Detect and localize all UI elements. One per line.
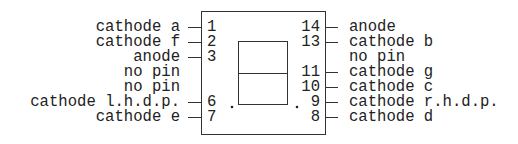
left-decimal-point [231,106,234,109]
pin-number-13: 13 [296,35,320,50]
left-label-7: cathode e [0,110,180,125]
pinout-diagram: cathode a cathode f anode no pin no pin … [0,0,518,144]
pin-number-7: 7 [207,110,216,125]
pin-number-8: 8 [296,110,320,125]
pin-number-3: 3 [207,50,216,65]
right-label-8: cathode d [349,110,433,125]
